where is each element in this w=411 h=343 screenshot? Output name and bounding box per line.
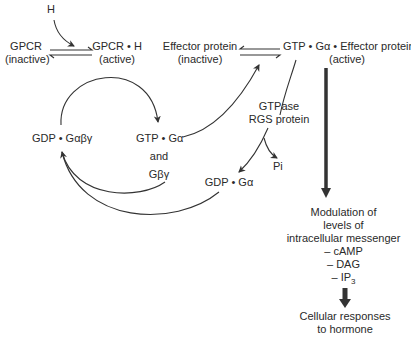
effector-forward-arrow: [240, 55, 280, 58]
rgs-protein-name: RGS protein: [246, 113, 312, 126]
messenger-ip3-text: – IP: [331, 271, 351, 283]
gtpase-rgs-label: GTPase RGS protein: [246, 100, 312, 126]
effector-inactive-state: (inactive): [160, 53, 240, 66]
effector-inactive-label: Effector protein (inactive): [160, 40, 240, 66]
effector-active-label: GTP • Gα • Effector protein (active): [283, 40, 411, 66]
gtp-galpha-label: GTP • Gα: [136, 132, 182, 145]
modulation-label: Modulation of levels of intracellular me…: [276, 206, 411, 288]
gtpase-name: GTPase: [246, 100, 312, 113]
effector-to-modulation-arrowhead: [321, 188, 331, 198]
gpcr-inactive-label: GPCR (inactive): [5, 40, 47, 66]
effector-active-name: GTP • Gα • Effector protein: [283, 40, 411, 53]
and-label: and: [136, 150, 182, 163]
activation-cycle-arrow: [61, 78, 158, 125]
effector-active-state: (active): [283, 53, 411, 66]
modulation-line2: levels of: [276, 219, 411, 232]
pi-label: Pi: [273, 160, 283, 173]
effector-inactive-name: Effector protein: [160, 40, 240, 53]
hormone-binding-arrow: [54, 20, 74, 46]
gtpase-to-gdp-ga-arrow: [239, 128, 268, 172]
gpcr-active-label: GPCR • H (active): [92, 40, 142, 66]
effector-reverse-arrow: [240, 46, 280, 49]
gpcr-forward-arrow: [50, 47, 92, 50]
gpcr-reverse-arrow: [50, 55, 92, 58]
messenger-dag: – DAG: [276, 258, 411, 271]
gdp-galpha-label: GDP • Gα: [204, 176, 254, 189]
gpcr-active-name: GPCR • H: [92, 40, 142, 53]
pi-release-arrow: [264, 138, 277, 158]
response-line1: Cellular responses: [290, 310, 400, 323]
gpcr-inactive-state: (inactive): [5, 53, 47, 66]
response-line2: to hormone: [290, 323, 400, 336]
messenger-camp: – cAMP: [276, 245, 411, 258]
cellular-response-label: Cellular responses to hormone: [290, 310, 400, 336]
gdp-galpha-beta-gamma-label: GDP • Gαβγ: [32, 132, 92, 145]
gpcr-inactive-name: GPCR: [5, 40, 47, 53]
messenger-ip3-subscript: 3: [351, 277, 355, 286]
gpcr-active-state: (active): [92, 53, 142, 66]
messenger-ip3: – IP3: [276, 271, 411, 288]
messenger-to-response-arrowhead: [339, 299, 351, 308]
gbeta-gamma-label: Gβγ: [136, 168, 182, 181]
hormone-label: H: [47, 3, 55, 16]
modulation-line1: Modulation of: [276, 206, 411, 219]
modulation-line3: intracellular messenger: [276, 232, 411, 245]
